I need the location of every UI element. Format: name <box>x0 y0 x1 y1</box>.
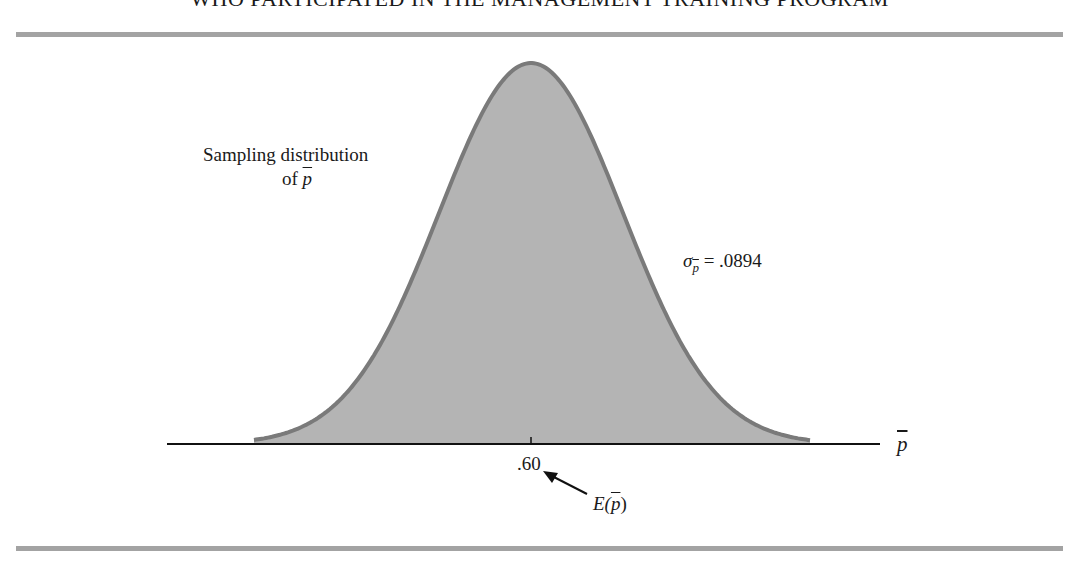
expected-value-label: E(p) <box>593 493 627 515</box>
std-error-label: σp = .0894 <box>683 250 762 276</box>
axis-label-p-bar: p <box>897 432 908 457</box>
distribution-label-line1: Sampling distribution <box>203 144 368 166</box>
distribution-label-line2: of p <box>282 168 312 190</box>
mean-tick-label: .60 <box>517 453 541 475</box>
p-bar-symbol: p <box>303 168 313 189</box>
sampling-distribution-chart <box>0 0 1079 573</box>
